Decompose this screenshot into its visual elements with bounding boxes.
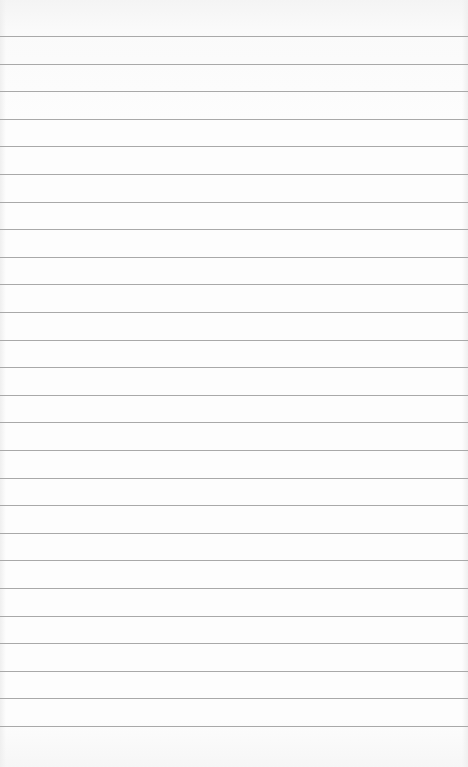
ruled-line xyxy=(0,284,468,285)
ruled-line xyxy=(0,91,468,92)
ruled-line xyxy=(0,202,468,203)
ruled-line xyxy=(0,36,468,37)
ruled-line xyxy=(0,257,468,258)
ruled-line xyxy=(0,533,468,534)
ruled-line xyxy=(0,146,468,147)
ruled-line xyxy=(0,588,468,589)
ruled-line xyxy=(0,643,468,644)
ruled-line xyxy=(0,450,468,451)
ruled-line xyxy=(0,174,468,175)
ruled-line xyxy=(0,560,468,561)
ruled-line xyxy=(0,367,468,368)
paper-right-edge-shadow xyxy=(462,0,468,767)
ruled-line xyxy=(0,726,468,727)
ruled-line xyxy=(0,340,468,341)
ruled-line xyxy=(0,505,468,506)
lined-paper xyxy=(0,0,468,767)
paper-left-edge-shadow xyxy=(0,0,6,767)
ruled-line xyxy=(0,119,468,120)
ruled-line xyxy=(0,478,468,479)
ruled-line xyxy=(0,64,468,65)
ruled-line xyxy=(0,422,468,423)
ruled-line xyxy=(0,395,468,396)
ruled-line xyxy=(0,698,468,699)
ruled-line xyxy=(0,312,468,313)
ruled-line xyxy=(0,616,468,617)
ruled-line xyxy=(0,229,468,230)
ruled-line xyxy=(0,671,468,672)
